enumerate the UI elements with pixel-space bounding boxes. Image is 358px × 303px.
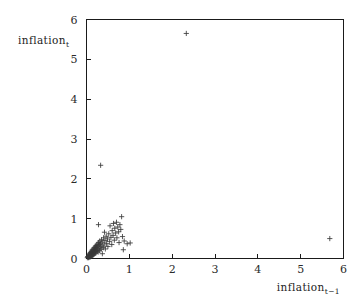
x-tick-label: 0	[83, 263, 90, 276]
y-tick-label: 1	[71, 213, 78, 226]
y-tick-label: 0	[71, 253, 78, 266]
x-tick-label: 1	[126, 263, 133, 276]
plot-canvas: 0123456 0123456 inflationt inflationt−1	[0, 0, 358, 303]
x-tick-label: 4	[254, 263, 261, 276]
y-tick-label: 5	[71, 53, 78, 66]
x-tick-label: 2	[169, 263, 176, 276]
y-tick-label: 3	[71, 133, 78, 146]
y-tick-label: 2	[71, 173, 78, 186]
y-tick-label: 6	[71, 14, 78, 27]
y-tick-label: 4	[71, 93, 78, 106]
x-tick-label: 5	[297, 263, 304, 276]
scatter-plot-figure: 0123456 0123456 inflationt inflationt−1	[0, 0, 358, 303]
x-tick-label: 6	[340, 263, 347, 276]
x-tick-label: 3	[212, 263, 219, 276]
